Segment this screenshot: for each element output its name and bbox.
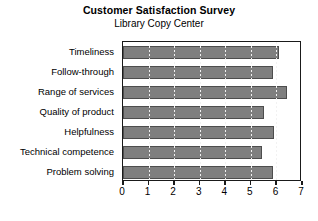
gridline	[149, 42, 150, 180]
chart-title: Customer Satisfaction Survey	[0, 4, 318, 17]
category-label: Follow-through	[51, 66, 114, 77]
chart-subtitle: Library Copy Center	[0, 17, 318, 30]
x-tick-label: 7	[298, 185, 304, 198]
category-label: Technical competence	[20, 146, 114, 157]
x-tick-label: 3	[196, 185, 202, 198]
gridline	[200, 42, 201, 180]
category-axis-labels: TimelinessFollow-throughRange of service…	[0, 41, 118, 181]
bar	[123, 146, 262, 159]
x-tick-label: 2	[170, 185, 176, 198]
x-axis-tick-labels: 01234567	[122, 185, 301, 201]
category-label: Quality of product	[40, 106, 114, 117]
x-tick-label: 6	[273, 185, 279, 198]
gridline	[251, 42, 252, 180]
gridline	[225, 42, 226, 180]
bar-chart: Customer Satisfaction Survey Library Cop…	[0, 0, 318, 221]
category-label: Problem solving	[46, 166, 114, 177]
plot-inner	[123, 42, 300, 180]
gridline	[174, 42, 175, 180]
bar	[123, 106, 264, 119]
category-label: Range of services	[38, 86, 114, 97]
category-label: Helpfulness	[64, 126, 114, 137]
gridline	[276, 42, 277, 180]
bar	[123, 46, 279, 59]
title-block: Customer Satisfaction Survey Library Cop…	[0, 4, 318, 30]
x-tick-label: 4	[222, 185, 228, 198]
x-tick-label: 1	[145, 185, 151, 198]
bar	[123, 86, 287, 99]
x-tick-label: 0	[119, 185, 125, 198]
category-label: Timeliness	[69, 46, 114, 57]
plot-area	[122, 41, 301, 181]
x-tick-label: 5	[247, 185, 253, 198]
